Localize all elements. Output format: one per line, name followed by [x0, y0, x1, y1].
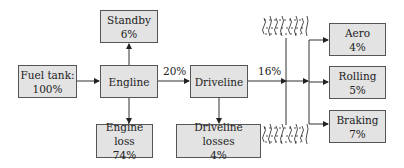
node-value: 4%: [349, 40, 366, 54]
node-label: Driveline losses: [177, 120, 260, 148]
node-value: 5%: [349, 83, 366, 97]
node-label: Braking: [336, 113, 378, 127]
node-label: Rolling: [339, 69, 377, 83]
engine-node: Engline: [100, 65, 158, 98]
node-label: Driveline: [195, 75, 244, 89]
node-value: 6%: [121, 27, 138, 41]
node-label: Engline: [109, 75, 150, 89]
rolling-node: Rolling 5%: [329, 66, 386, 99]
engine-to-driveline-label: 20%: [163, 65, 186, 77]
node-label: Aero: [345, 26, 370, 40]
braking-node: Braking 7%: [329, 110, 386, 143]
node-value: 74%: [113, 148, 136, 162]
node-label: Fuel tank:: [20, 68, 74, 82]
node-value: 4%: [210, 148, 227, 162]
engine-loss-node: Engine loss 74%: [96, 124, 153, 158]
node-value: 100%: [32, 82, 62, 96]
driveline-to-wheels-label: 16%: [258, 65, 281, 77]
node-label: Standby: [107, 13, 151, 27]
tire-tread-top-icon: [263, 16, 309, 36]
driveline-node: Driveline: [190, 65, 248, 98]
standby-node: Standby 6%: [100, 10, 158, 43]
node-value: 7%: [349, 127, 366, 141]
aero-node: Aero 4%: [329, 23, 386, 56]
node-label: Engine loss: [97, 120, 152, 148]
fuel-tank-node: Fuel tank: 100%: [18, 65, 77, 98]
driveline-losses-node: Driveline losses 4%: [176, 124, 261, 158]
tire-tread-bottom-icon: [263, 124, 309, 144]
